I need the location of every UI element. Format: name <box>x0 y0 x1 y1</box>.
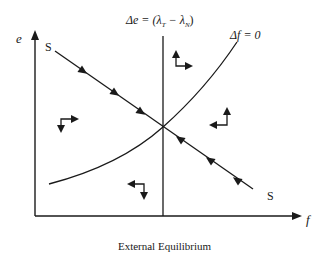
y-axis <box>31 30 39 216</box>
saddle-path-label-bottom: S <box>267 190 274 202</box>
delta-e-mid: − λ <box>166 13 185 27</box>
delta-e-lhs: Δe = (λ <box>126 13 162 27</box>
delta-f-label: Δf = 0 <box>230 29 260 41</box>
phase-arrow-upper-right-icon <box>172 50 193 70</box>
x-axis <box>35 212 302 220</box>
external-equilibrium-diagram: e f S S Δe = (λT − λN) Δf = 0 External E… <box>0 0 329 254</box>
saddle-arrow-icon <box>109 87 121 99</box>
phase-arrow-right-icon <box>209 107 231 129</box>
phase-diagram-canvas <box>0 0 329 254</box>
y-axis-label: e <box>16 32 22 45</box>
x-axis-arrow-icon <box>292 212 302 220</box>
saddle-path-label-top: S <box>45 41 52 53</box>
y-axis-arrow-icon <box>31 30 39 40</box>
phase-arrow-lower-left-icon <box>127 180 148 200</box>
delta-e-rhs: ) <box>190 13 194 27</box>
delta-e-label: Δe = (λT − λN) <box>126 14 194 29</box>
saddle-arrow-icon <box>231 174 243 186</box>
figure-caption: External Equilibrium <box>0 241 329 252</box>
x-axis-label: f <box>306 213 310 226</box>
phase-arrow-upper-left-icon <box>57 115 79 133</box>
